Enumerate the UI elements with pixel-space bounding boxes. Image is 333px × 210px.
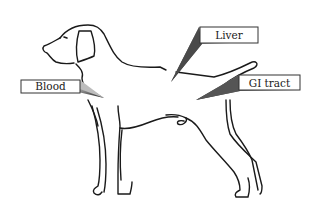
dog-ear (77, 31, 95, 62)
dog-hind-leg-back-inner (230, 100, 258, 190)
dog-head-back-line (60, 25, 166, 70)
dog-eye (64, 37, 67, 38)
dog-diagram (0, 0, 333, 210)
diagram-canvas: Blood Liver GI tract (0, 0, 333, 210)
gi-tract-label: GI tract (239, 76, 300, 91)
dog-belly-line (120, 117, 178, 129)
blood-label: Blood (21, 80, 80, 93)
gi-wedge-side (196, 75, 240, 100)
dog-face-line (43, 38, 74, 64)
dog-hind-leg-front (186, 118, 250, 197)
dog-outline (43, 25, 262, 197)
dog-front-leg-2-back (120, 130, 122, 180)
liver-label: Liver (200, 28, 258, 43)
dog-front-leg-1-inner (97, 108, 106, 192)
